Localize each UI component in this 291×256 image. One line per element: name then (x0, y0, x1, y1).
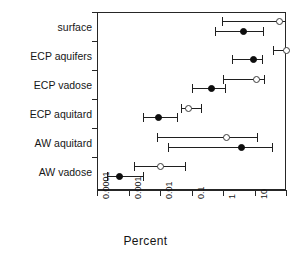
whisker-bar (157, 137, 257, 138)
whisker-cap-low (181, 104, 182, 113)
x-axis-tick-4 (223, 190, 224, 196)
x-axis-tick-2 (160, 190, 161, 196)
whisker-cap-low (215, 27, 216, 36)
x-axis-tick-label-0: 0.0001 (101, 171, 111, 199)
category-label-3: ECP aquitard (30, 109, 92, 120)
whisker-cap-low (134, 162, 135, 171)
y-axis-tick-4 (92, 128, 98, 129)
x-axis-tick-3 (192, 190, 193, 196)
whisker-cap-high (262, 55, 263, 64)
x-axis-tick-label-3: 0.1 (196, 186, 206, 199)
x-axis-title: Percent (0, 234, 291, 248)
filled-circle-marker (250, 56, 257, 63)
open-circle-marker (157, 163, 164, 170)
filled-circle-marker (208, 85, 215, 92)
whisker-cap-high (185, 162, 186, 171)
y-axis-tick-0 (92, 12, 98, 13)
open-circle-marker (185, 105, 192, 112)
whisker-cap-low (232, 55, 233, 64)
whisker-cap-low (273, 46, 274, 55)
open-circle-marker (283, 47, 290, 54)
y-axis-tick-2 (92, 70, 98, 71)
category-label-4: AW aquitard (35, 138, 92, 149)
whisker-cap-high (201, 104, 202, 113)
x-axis-tick-label-6: 100 (290, 184, 291, 199)
filled-circle-marker (155, 114, 162, 121)
x-axis-tick-5 (255, 190, 256, 196)
whisker-cap-low (168, 143, 169, 152)
filled-circle-marker (116, 173, 123, 180)
percent-dot-chart: surfaceECP aquifersECP vadoseECP aquitar… (0, 0, 291, 256)
whisker-bar (232, 59, 261, 60)
whisker-cap-high (257, 133, 258, 142)
y-axis-tick-1 (92, 41, 98, 42)
whisker-cap-low (143, 113, 144, 122)
x-axis-tick-1 (129, 190, 130, 196)
open-circle-marker (223, 134, 230, 141)
whisker-cap-high (177, 113, 178, 122)
x-axis-tick-6 (286, 190, 287, 196)
whisker-cap-low (223, 75, 224, 84)
whisker-cap-high (263, 27, 264, 36)
y-axis-tick-5 (92, 157, 98, 158)
x-axis-tick-label-2: 0.01 (164, 181, 174, 199)
whisker-cap-low (192, 84, 193, 93)
category-label-1: ECP aquifers (30, 51, 92, 62)
filled-circle-marker (238, 144, 245, 151)
category-label-0: surface (58, 22, 92, 33)
whisker-bar (168, 147, 272, 148)
whisker-cap-high (272, 143, 273, 152)
x-axis-tick-0 (97, 190, 98, 196)
whisker-bar (215, 31, 263, 32)
open-circle-marker (276, 18, 283, 25)
y-axis-tick-3 (92, 99, 98, 100)
whisker-cap-high (225, 84, 226, 93)
whisker-cap-high (264, 75, 265, 84)
x-axis-tick-label-5: 10 (259, 189, 269, 199)
filled-circle-marker (240, 28, 247, 35)
whisker-cap-low (157, 133, 158, 142)
whisker-cap-low (222, 17, 223, 26)
plot-area (97, 12, 286, 190)
category-label-2: ECP vadose (34, 80, 92, 91)
x-axis-tick-label-1: 0.001 (133, 176, 143, 199)
category-label-5: AW vadose (39, 167, 92, 178)
x-axis-tick-label-4: 1 (227, 194, 237, 199)
